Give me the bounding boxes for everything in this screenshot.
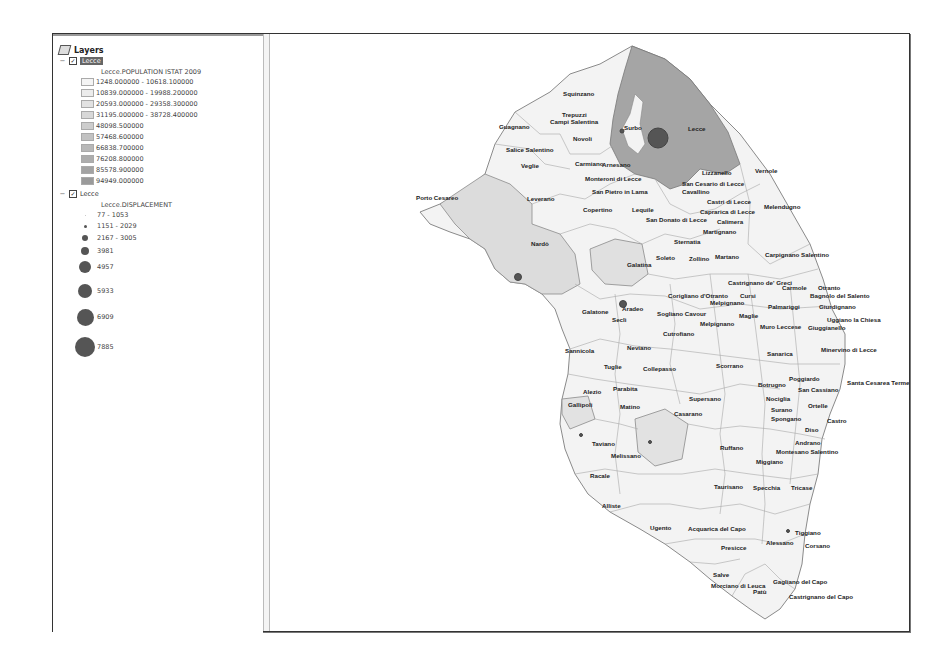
- displacement-circle: [649, 441, 652, 444]
- municipality-label: Parabita: [613, 385, 638, 392]
- legend-class-label: 6909: [97, 313, 114, 321]
- municipality-label: Martano: [715, 253, 739, 260]
- legend-swatch: [81, 78, 94, 86]
- municipality-label: Martignano: [703, 228, 737, 235]
- municipality-label: Collepasso: [643, 365, 676, 372]
- layer-visibility-checkbox[interactable]: ✓: [69, 190, 77, 198]
- legend-swatch: [81, 155, 94, 163]
- circle-symbol: [79, 261, 91, 273]
- municipality-label: Squinzano: [563, 90, 594, 97]
- municipality-label: Castro: [827, 417, 847, 424]
- legend-class: 76208.800000: [81, 155, 144, 163]
- municipality-label: Vernole: [755, 167, 778, 174]
- legend-class-label: 31195.000000 - 38728.400000: [96, 111, 198, 119]
- municipality-label: Guagnano: [499, 123, 530, 130]
- layer-name[interactable]: Lecce: [80, 190, 99, 198]
- municipality-label: Campi Salentina: [550, 118, 599, 125]
- legend-class-label: 57468.600000: [96, 133, 144, 141]
- municipality-label: Sanarica: [767, 350, 793, 357]
- municipality-label: Melpignano: [700, 320, 735, 327]
- legend-class-label: 77 - 1053: [97, 211, 128, 219]
- collapse-toggle-icon[interactable]: −: [59, 190, 66, 198]
- municipality-label: Carmiano: [575, 160, 604, 167]
- legend-class: 4957: [75, 259, 114, 274]
- legend-class: 10839.000000 - 19988.200000: [81, 89, 198, 97]
- municipality-label: San Cesario di Lecce: [682, 180, 745, 187]
- municipality-label: Gagliano del Capo: [773, 578, 828, 585]
- municipality-label: Diso: [805, 426, 819, 433]
- municipality-label: Sogliano Cavour: [657, 310, 707, 317]
- municipality-label: Melissano: [611, 452, 641, 459]
- legend-class: 66838.700000: [81, 144, 144, 152]
- layer-name[interactable]: Lecce: [80, 57, 103, 65]
- panel-splitter[interactable]: [263, 34, 270, 631]
- municipality-label: Giurdignano: [819, 303, 856, 310]
- legend-symbol-icon: [75, 335, 95, 358]
- map-canvas[interactable]: SquinzanoTrepuzziCampi SalentinaSurboLec…: [270, 34, 909, 631]
- layer-row[interactable]: −✓Lecce: [59, 190, 99, 198]
- municipality-label: Carmole: [782, 284, 807, 291]
- municipality-label: Monteroni di Lecce: [585, 175, 642, 182]
- legend-swatch: [81, 89, 94, 97]
- legend-class-label: 85578.900000: [96, 166, 144, 174]
- municipality-label: Tiggiano: [795, 529, 821, 536]
- municipality-label: Nociglia: [766, 395, 791, 402]
- circle-symbol: [78, 284, 92, 298]
- municipality-label: Uggiano la Chiesa: [827, 316, 881, 323]
- toc-title: Layers: [74, 46, 104, 55]
- municipality-label: Otranto: [818, 284, 841, 291]
- displacement-circle: [620, 129, 624, 133]
- displacement-circle: [580, 434, 583, 437]
- municipality-label: Matino: [620, 403, 640, 410]
- municipality-label: Calimera: [717, 218, 744, 225]
- layers-icon: [58, 45, 72, 55]
- municipality-label: Cavallino: [682, 188, 710, 195]
- municipality-label: Alliste: [602, 502, 621, 509]
- municipality-label: Muro Leccese: [760, 323, 802, 330]
- municipality-label: Alezio: [583, 388, 601, 395]
- municipality-label: Seclì: [612, 316, 627, 323]
- collapse-toggle-icon[interactable]: −: [59, 57, 66, 65]
- legend-swatch: [81, 100, 94, 108]
- municipality-label: Caprarica di Lecce: [700, 208, 756, 215]
- legend-class-label: 94949.000000: [96, 177, 144, 185]
- municipality-label: Andrano: [795, 439, 821, 446]
- legend-swatch: [81, 166, 94, 174]
- legend-class: 31195.000000 - 38728.400000: [81, 111, 198, 119]
- municipality-label: Salve: [713, 571, 730, 578]
- legend-symbol-icon: [75, 245, 95, 256]
- circle-symbol: [82, 235, 88, 241]
- legend-symbol-icon: [75, 222, 95, 230]
- legend-class: 57468.600000: [81, 133, 144, 141]
- legend-symbol-icon: [75, 233, 95, 242]
- legend-swatch: [81, 144, 94, 152]
- circle-symbol: [77, 309, 94, 326]
- legend-class: 3981: [75, 245, 114, 256]
- municipality-label: Corsano: [805, 542, 830, 549]
- municipality-label: Castri di Lecce: [707, 198, 752, 205]
- municipality-label: Casarano: [674, 410, 702, 417]
- layer-visibility-checkbox[interactable]: ✓: [69, 57, 77, 65]
- municipality-label: Surano: [771, 406, 793, 413]
- circle-symbol: [85, 215, 86, 216]
- municipality-label: Ortelle: [808, 402, 828, 409]
- municipality-label: Lecce: [688, 125, 706, 132]
- municipality-label: Galatone: [582, 308, 609, 315]
- municipality-label: Corigliano d'Otranto: [668, 292, 728, 299]
- legend-class-label: 3981: [97, 247, 114, 255]
- municipality-label: Trepuzzi: [562, 111, 587, 118]
- municipality-label: Zollino: [689, 255, 709, 262]
- municipality-label: Santa Cesarea Terme: [847, 379, 909, 386]
- municipality-label: Melpignano: [710, 299, 745, 306]
- toc-header: Layers: [59, 45, 104, 55]
- municipality-label: Patù: [753, 588, 767, 595]
- displacement-circle: [620, 301, 627, 308]
- layer-row[interactable]: −✓Lecce: [59, 57, 103, 65]
- legend-class: 6909: [75, 307, 114, 327]
- legend-class: 48098.500000: [81, 122, 144, 130]
- municipality-label: Galatina: [627, 261, 652, 268]
- legend-symbol-icon: [75, 282, 95, 299]
- map-view[interactable]: SquinzanoTrepuzziCampi SalentinaSurboLec…: [270, 34, 909, 631]
- municipality-label: Specchia: [753, 484, 781, 491]
- municipality-label: Veglie: [521, 162, 539, 169]
